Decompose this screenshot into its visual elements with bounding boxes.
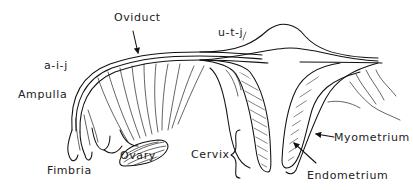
fimbria xyxy=(68,110,110,161)
label-endometrium: Endometrium xyxy=(307,170,388,182)
reproductive-tract-diagram: Oviduct a-i-j u-t-j Ampulla Fimbria Ovar… xyxy=(0,0,413,190)
mesosalpinx-folds xyxy=(98,64,204,153)
cervix-brace xyxy=(231,130,240,178)
uterus-right-horn xyxy=(282,63,400,174)
label-ampulla: Ampulla xyxy=(18,89,67,101)
label-fimbria: Fimbria xyxy=(47,165,92,177)
label-cervix: Cervix xyxy=(191,149,230,161)
label-utj: u-t-j xyxy=(218,27,243,39)
myometrium-pointer xyxy=(316,134,334,137)
label-aij: a-i-j xyxy=(44,60,68,72)
label-ovary: Ovary xyxy=(120,150,156,162)
label-oviduct: Oviduct xyxy=(114,12,161,24)
label-myometrium: Myometrium xyxy=(334,132,410,144)
